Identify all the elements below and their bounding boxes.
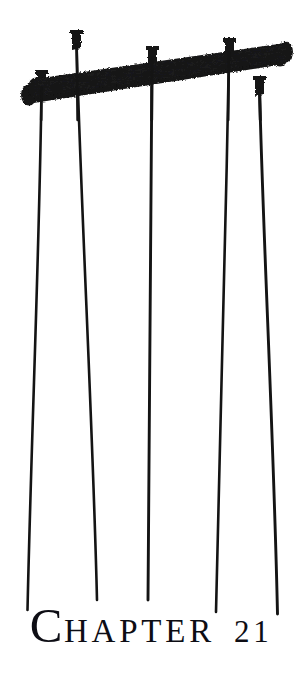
string-2-top — [77, 45, 78, 120]
upper-beam-group — [28, 30, 293, 99]
crossed-beams-illustration — [0, 0, 302, 686]
string-5 — [260, 88, 278, 614]
string-4-top — [228, 52, 229, 120]
string-2 — [77, 45, 98, 600]
string-3 — [148, 58, 152, 600]
string-5-top — [260, 88, 261, 120]
hanging-strings-group — [28, 45, 278, 614]
upper-beam-grain — [34, 43, 286, 97]
string-1 — [28, 88, 42, 610]
chapter-heading-page: C HAPTER 21 — [0, 0, 302, 686]
string-4 — [216, 52, 229, 612]
